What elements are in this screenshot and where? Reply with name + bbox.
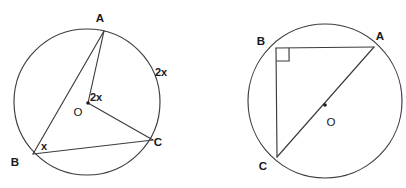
- right-vertex-label-c: C: [259, 160, 267, 172]
- left-central-angle-label: 2x: [90, 91, 103, 103]
- left-circle-figure: A B C O 2x 2x x: [11, 12, 168, 175]
- left-center-label-o: O: [74, 106, 83, 118]
- left-arc-measure-label: 2x: [155, 66, 168, 78]
- left-vertex-label-b: B: [11, 156, 19, 168]
- left-radius-oc: [88, 103, 153, 140]
- left-inscribed-angle-label: x: [41, 140, 48, 152]
- right-center-dot: [323, 103, 327, 107]
- right-angle-marker-icon: [276, 48, 289, 61]
- right-vertex-label-a: A: [376, 30, 384, 42]
- left-vertex-label-a: A: [96, 12, 104, 24]
- right-center-label-o: O: [327, 116, 336, 128]
- geometry-figure-container: A B C O 2x 2x x A B C O: [0, 0, 406, 188]
- left-chord-bc: [33, 140, 153, 154]
- right-vertex-label-b: B: [257, 35, 265, 47]
- right-circle-figure: A B C O: [248, 24, 402, 178]
- right-chord-ba: [276, 47, 374, 48]
- right-diameter-ca: [277, 47, 374, 157]
- right-chord-bc: [276, 48, 277, 157]
- geometry-canvas: A B C O 2x 2x x A B C O: [0, 0, 406, 188]
- left-vertex-label-c: C: [154, 136, 162, 148]
